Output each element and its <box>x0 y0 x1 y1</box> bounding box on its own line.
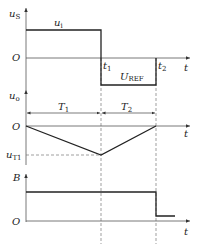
top-origin-label: O <box>12 52 20 63</box>
uo-waveform <box>26 126 156 155</box>
bottom-y-label: B <box>12 172 20 183</box>
bottom-origin-label: O <box>12 216 20 227</box>
t1-label: t1 <box>103 60 112 73</box>
dual-slope-timing-diagram: uS ui O t t1 t2 UREF uo T1 T2 O t uT1 B … <box>0 0 200 244</box>
t2-label: t2 <box>158 60 167 73</box>
top-x-label: t <box>184 62 189 73</box>
ui-label: ui <box>54 17 63 30</box>
ut1-label: uT1 <box>6 149 22 162</box>
middle-origin-label: O <box>12 121 20 132</box>
middle-y-label: uo <box>9 90 20 103</box>
top-y-label: uS <box>9 8 20 21</box>
t1-interval-label: T1 <box>58 101 69 114</box>
t2-interval-label: T2 <box>121 101 132 114</box>
bottom-x-label: t <box>184 226 189 237</box>
b-waveform <box>26 192 175 216</box>
uref-label: UREF <box>120 71 144 83</box>
top-panel: uS ui O t t1 t2 UREF <box>9 8 190 90</box>
middle-panel: uo T1 T2 O t uT1 <box>6 90 190 165</box>
middle-x-label: t <box>184 128 189 139</box>
